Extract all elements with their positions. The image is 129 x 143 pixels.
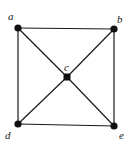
label-a: a	[8, 10, 14, 22]
vertex-e	[110, 122, 117, 129]
label-d: d	[5, 129, 11, 141]
label-b: b	[117, 13, 123, 25]
edge-c-e	[67, 77, 114, 126]
vertex-c	[64, 74, 71, 81]
edge-a-b	[18, 28, 114, 29]
vertex-d	[14, 120, 21, 127]
edge-a-c	[18, 28, 67, 77]
label-c: c	[64, 61, 69, 73]
edge-c-d	[18, 77, 67, 124]
edge-b-c	[67, 29, 114, 77]
graph-diagram: a b c d e	[0, 0, 129, 143]
label-e: e	[119, 129, 124, 141]
vertex-b	[110, 25, 117, 32]
vertex-a	[14, 24, 21, 31]
edge-e-d	[18, 124, 114, 126]
